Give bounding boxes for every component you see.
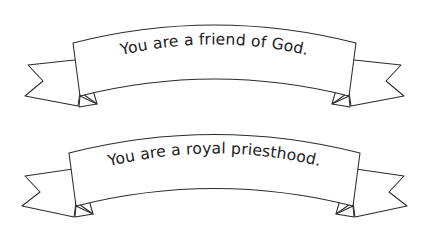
banner-top: You are a friend of God.	[25, 25, 404, 107]
banner-illustration-canvas: You are a friend of God. You are a royal…	[0, 0, 429, 247]
banners-svg: You are a friend of God. You are a royal…	[0, 0, 429, 247]
banner-bottom: You are a royal priesthood.	[22, 135, 407, 218]
